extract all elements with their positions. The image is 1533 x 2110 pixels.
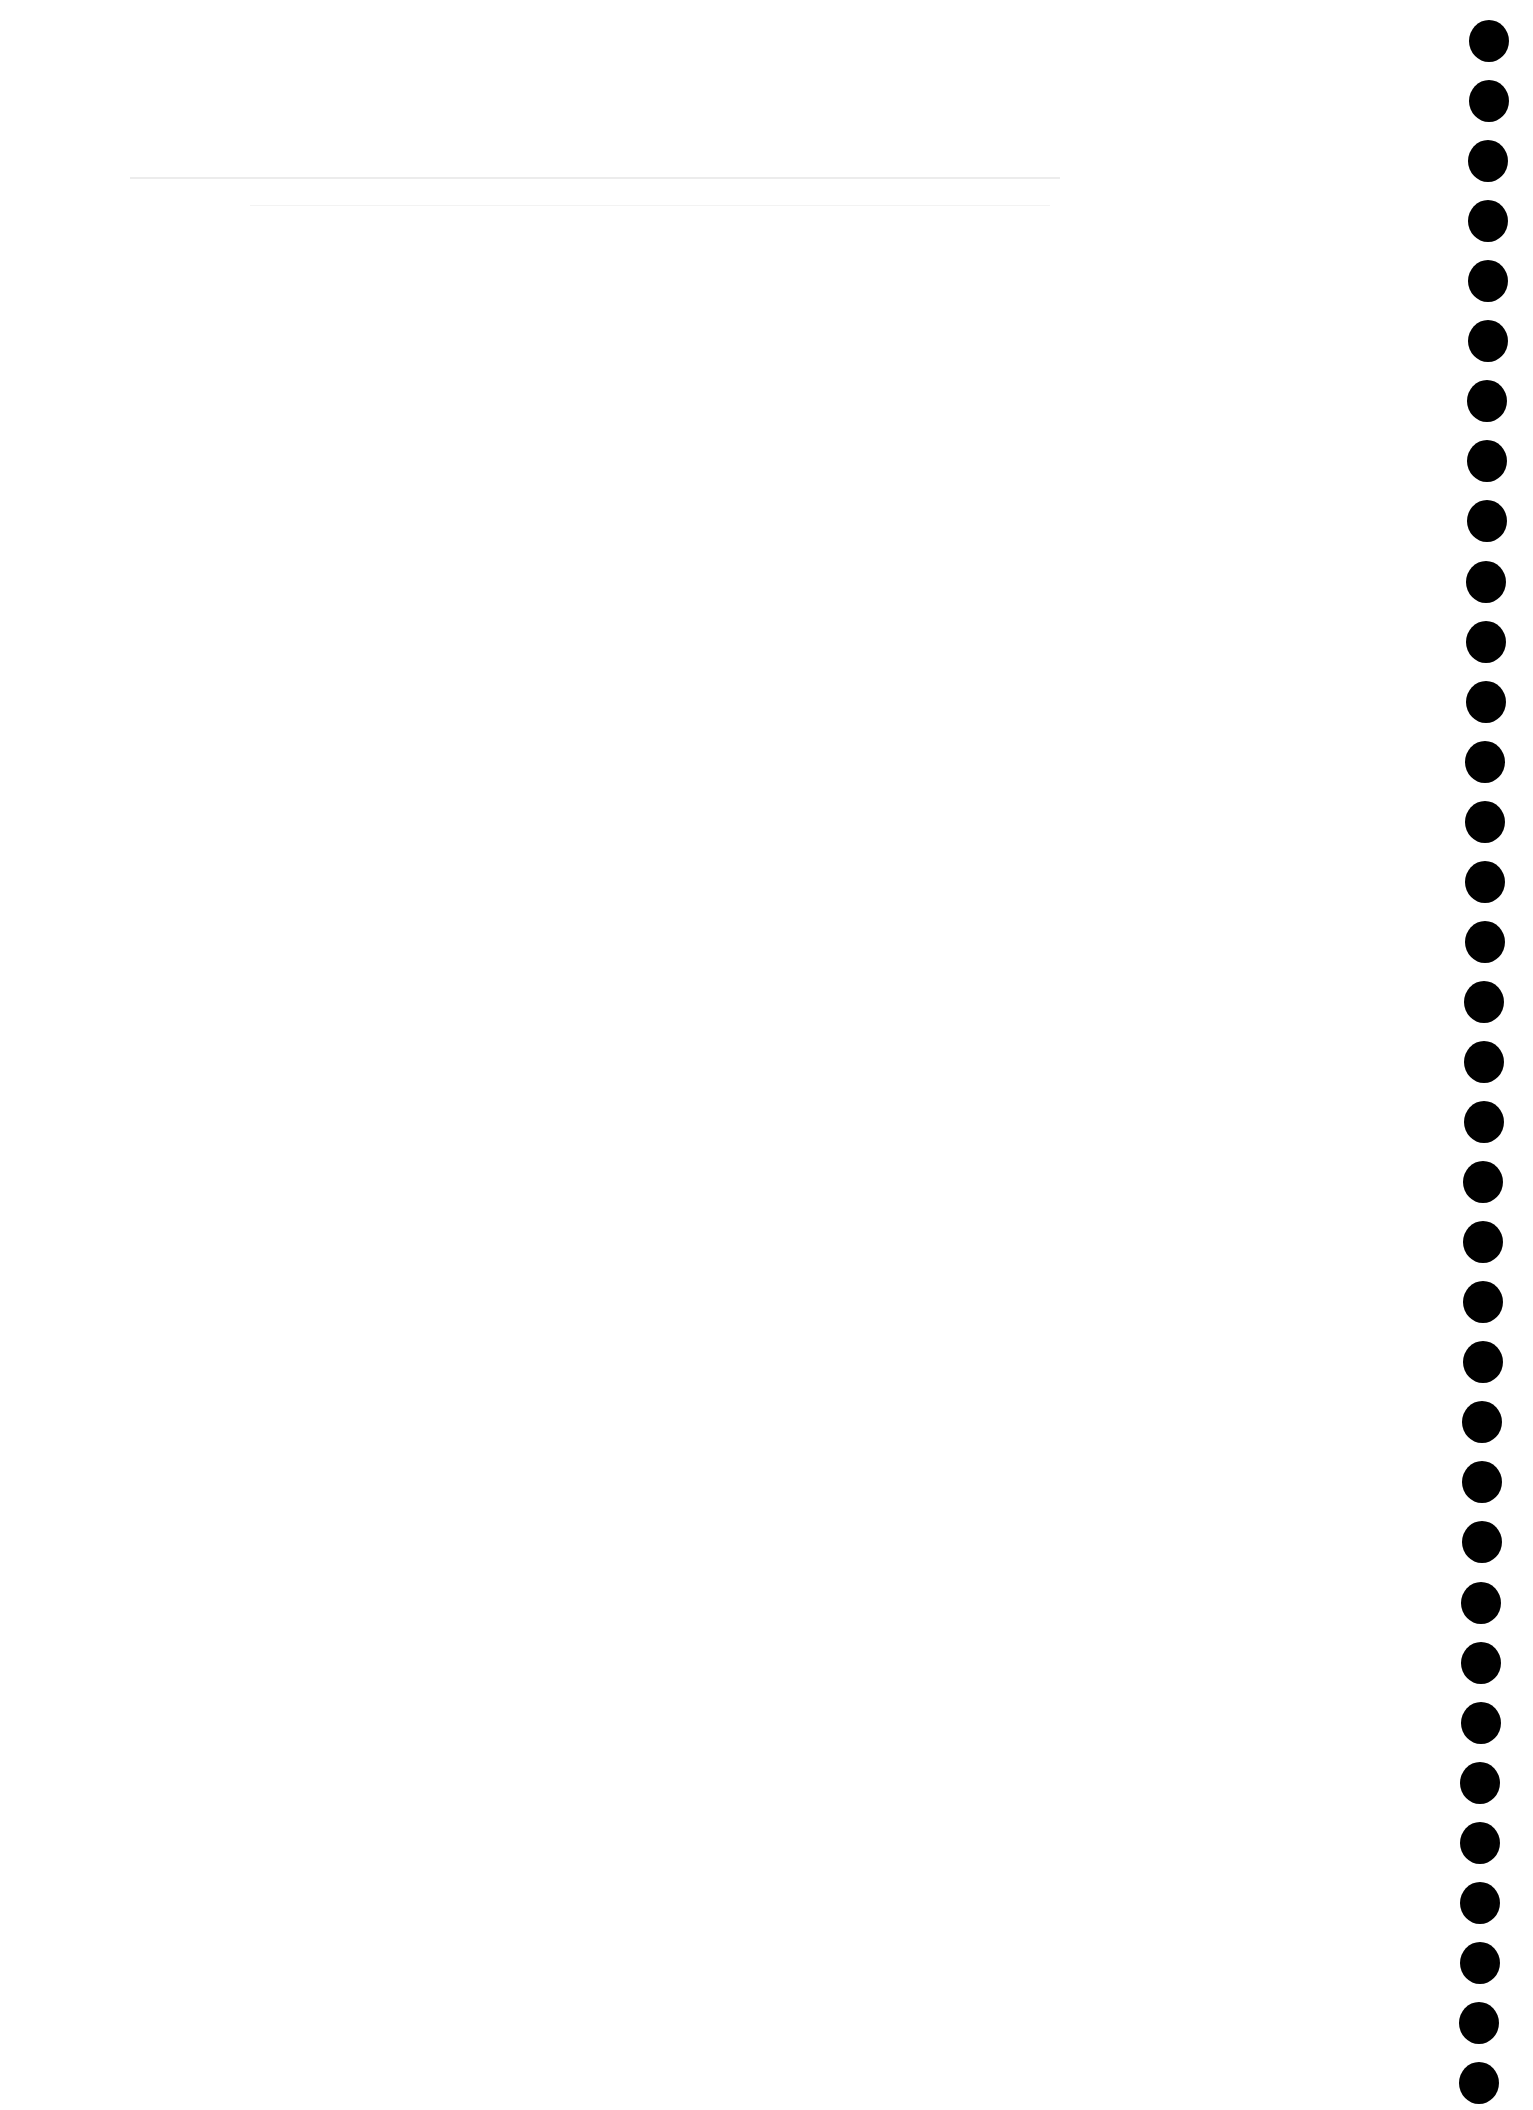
punch-hole-icon xyxy=(1462,1521,1502,1563)
header-subrule xyxy=(250,205,1050,206)
punch-hole-icon xyxy=(1460,1762,1500,1804)
punch-hole-icon xyxy=(1461,1702,1501,1744)
punch-hole-icon xyxy=(1466,621,1506,663)
punch-hole-icon xyxy=(1464,1041,1504,1083)
punch-hole-icon xyxy=(1462,1461,1502,1503)
punch-hole-icon xyxy=(1460,1942,1500,1984)
punch-hole-icon xyxy=(1460,1882,1500,1924)
punch-hole-icon xyxy=(1463,1161,1503,1203)
punch-hole-icon xyxy=(1468,260,1508,302)
punch-hole-icon xyxy=(1465,861,1505,903)
punch-hole-icon xyxy=(1467,440,1507,482)
punch-hole-icon xyxy=(1465,741,1505,783)
punch-hole-icon xyxy=(1460,1822,1500,1864)
punch-hole-icon xyxy=(1459,2062,1499,2104)
header-rule xyxy=(130,177,1060,179)
punch-hole-icon xyxy=(1463,1221,1503,1263)
punch-hole-icon xyxy=(1463,1341,1503,1383)
punch-hole-icon xyxy=(1466,681,1506,723)
punch-hole-column xyxy=(1433,0,1533,2110)
blank-page xyxy=(0,0,1533,2110)
punch-hole-icon xyxy=(1459,2002,1499,2044)
punch-hole-icon xyxy=(1463,1281,1503,1323)
punch-hole-icon xyxy=(1467,500,1507,542)
punch-hole-icon xyxy=(1465,801,1505,843)
punch-hole-icon xyxy=(1461,1642,1501,1684)
punch-hole-icon xyxy=(1468,320,1508,362)
faint-header-text xyxy=(360,120,880,140)
punch-hole-icon xyxy=(1461,1582,1501,1624)
punch-hole-icon xyxy=(1466,561,1506,603)
punch-hole-icon xyxy=(1464,1101,1504,1143)
punch-hole-icon xyxy=(1464,981,1504,1023)
punch-hole-icon xyxy=(1468,140,1508,182)
punch-hole-icon xyxy=(1462,1401,1502,1443)
punch-hole-icon xyxy=(1467,380,1507,422)
punch-hole-icon xyxy=(1469,20,1509,62)
punch-hole-icon xyxy=(1468,200,1508,242)
punch-hole-icon xyxy=(1469,80,1509,122)
punch-hole-icon xyxy=(1465,921,1505,963)
